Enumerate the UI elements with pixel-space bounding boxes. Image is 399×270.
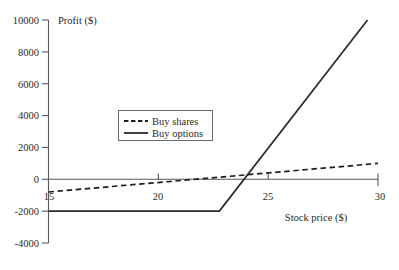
y-axis-ticks xyxy=(42,20,49,243)
x-axis-tick-labels: 15 20 25 30 xyxy=(44,191,386,202)
x-axis-title: Stock price ($) xyxy=(285,212,348,224)
legend-label-buy-shares: Buy shares xyxy=(152,116,198,127)
y-tick-label--4000: -4000 xyxy=(15,238,40,249)
legend-label-buy-options: Buy options xyxy=(152,128,203,139)
y-axis-tick-labels: 10000 8000 6000 4000 2000 0 -2000 -4000 xyxy=(13,15,39,249)
series-buy-shares-line xyxy=(49,163,379,192)
y-axis-title: Profit ($) xyxy=(58,15,97,27)
chart-legend: Buy shares Buy options xyxy=(119,111,213,141)
y-tick-label-4000: 4000 xyxy=(18,110,39,121)
x-tick-label-20: 20 xyxy=(153,191,164,202)
y-tick-label-6000: 6000 xyxy=(18,79,39,90)
y-tick-label-10000: 10000 xyxy=(13,15,39,26)
profit-diagram-chart: 10000 8000 6000 4000 2000 0 -2000 -4000 … xyxy=(0,0,399,270)
chart-canvas: 10000 8000 6000 4000 2000 0 -2000 -4000 … xyxy=(0,0,399,270)
x-tick-label-25: 25 xyxy=(263,191,274,202)
y-tick-label-2000: 2000 xyxy=(18,142,39,153)
y-tick-label--2000: -2000 xyxy=(15,206,40,217)
x-tick-label-30: 30 xyxy=(375,191,386,202)
y-tick-label-0: 0 xyxy=(34,174,39,185)
y-tick-label-8000: 8000 xyxy=(18,47,39,58)
